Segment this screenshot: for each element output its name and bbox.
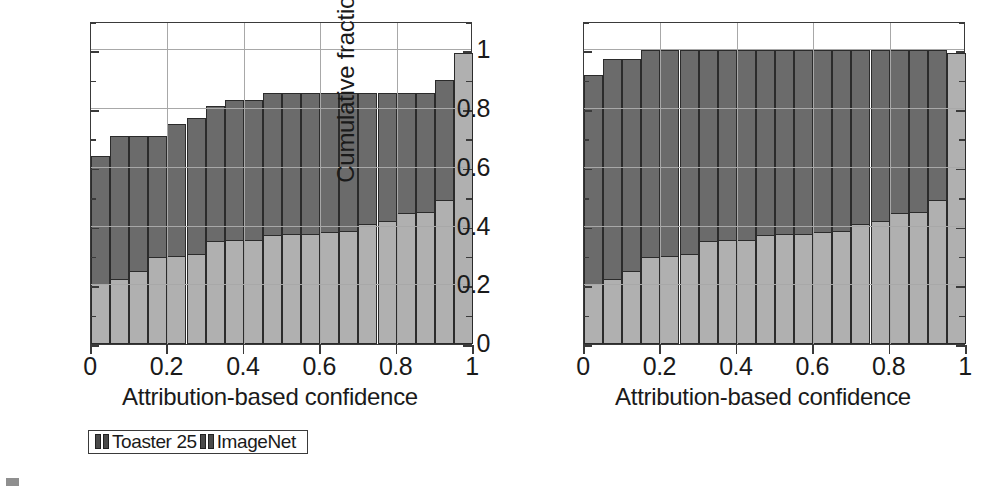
x-tick-mark <box>965 345 967 354</box>
gridline <box>584 108 964 109</box>
bar-group <box>641 23 660 344</box>
bar-segment-imagenet <box>603 279 622 344</box>
y-tick-label: 0.4 <box>430 214 490 239</box>
bar-segment-imagenet <box>794 234 813 344</box>
bar-group <box>129 23 148 344</box>
x-tick-label: 0.4 <box>701 352 771 380</box>
bar-group <box>148 23 167 344</box>
bar-segment-imagenet <box>813 232 832 344</box>
bar-group <box>832 23 851 344</box>
bar-group <box>851 23 870 344</box>
y-tick-mark-minor-right <box>959 257 965 259</box>
x-tick-label: 1 <box>930 352 986 380</box>
bar-group <box>225 23 244 344</box>
x-tick-mark <box>166 345 168 354</box>
bar-segment-imagenet <box>167 256 186 344</box>
bar-group <box>244 23 263 344</box>
chart-panel-right: Cumulative fraction of data Attribution-… <box>493 0 986 494</box>
bar-group <box>947 23 966 344</box>
y-tick-mark <box>583 110 592 112</box>
y-tick-mark-minor <box>90 198 96 200</box>
y-tick-mark-minor <box>583 257 589 259</box>
bar-segment-imagenet <box>206 241 225 344</box>
gridline <box>91 108 471 109</box>
y-tick-mark <box>90 286 99 288</box>
bar-segment-imagenet <box>263 235 282 344</box>
bar-group <box>890 23 909 344</box>
x-tick-mark <box>319 345 321 354</box>
x-tick-label: 0 <box>55 352 125 380</box>
bar-segment-imagenet <box>909 212 928 344</box>
x-tick-label: 0.2 <box>131 352 201 380</box>
gridline <box>91 226 471 227</box>
y-axis-label: Cumulative fraction of data <box>329 0 363 214</box>
bar-segment-imagenet <box>225 240 244 344</box>
page-scan-artifact <box>6 478 19 486</box>
y-tick-mark-minor-right <box>466 22 472 24</box>
bar-segment-imagenet <box>660 256 679 344</box>
bar-group <box>680 23 699 344</box>
bar-segment-imagenet <box>244 240 263 344</box>
bar-segment-imagenet <box>378 221 397 344</box>
y-tick-mark-right <box>956 345 965 347</box>
bar-group <box>603 23 622 344</box>
y-tick-mark <box>583 169 592 171</box>
x-tick-label: 0.6 <box>777 352 847 380</box>
bar-segment-imagenet <box>129 271 148 344</box>
bar-group <box>871 23 890 344</box>
y-tick-mark <box>583 228 592 230</box>
bar-segment-imagenet <box>339 231 358 344</box>
y-tick-mark-right <box>956 169 965 171</box>
bar-segment-imagenet <box>320 232 339 344</box>
bar-group <box>187 23 206 344</box>
y-tick-mark-minor-right <box>959 139 965 141</box>
y-tick-mark-minor <box>90 81 96 83</box>
bar-segment-imagenet <box>641 257 660 344</box>
y-tick-mark-minor-right <box>959 316 965 318</box>
y-tick-mark-minor-right <box>466 198 472 200</box>
y-tick-label: 0.8 <box>430 96 490 121</box>
x-axis-label: Attribution-based confidence <box>553 383 973 411</box>
bar-group <box>263 23 282 344</box>
gridline-vertical <box>660 23 661 344</box>
gridline-vertical <box>167 23 168 344</box>
x-tick-mark <box>659 345 661 354</box>
y-tick-mark <box>583 286 592 288</box>
x-tick-mark <box>889 345 891 354</box>
gridline-vertical <box>890 23 891 344</box>
bar-group <box>167 23 186 344</box>
x-tick-mark <box>812 345 814 354</box>
bar-group <box>794 23 813 344</box>
y-tick-mark-minor <box>90 22 96 24</box>
legend-label-2: ImageNet <box>217 432 296 451</box>
gridline-vertical <box>737 23 738 344</box>
bar-segment-imagenet <box>301 234 320 344</box>
x-tick-mark <box>583 345 585 354</box>
bar-segment-imagenet <box>584 284 603 344</box>
bar-group <box>660 23 679 344</box>
legend-label-1: Toaster 25 <box>112 432 197 451</box>
gridline <box>584 49 964 50</box>
bar-segment-imagenet <box>756 235 775 344</box>
x-tick-mark <box>736 345 738 354</box>
x-tick-mark <box>90 345 92 354</box>
legend-left: Toaster 25 ImageNet <box>88 430 308 454</box>
bars-left <box>91 23 471 344</box>
bar-segment-imagenet <box>890 213 909 344</box>
y-tick-mark-minor <box>90 257 96 259</box>
bar-group <box>699 23 718 344</box>
bar-segment-imagenet <box>622 271 641 344</box>
x-tick-label: 0.8 <box>854 352 924 380</box>
bar-group <box>622 23 641 344</box>
y-tick-mark-minor <box>583 198 589 200</box>
y-tick-label: 0.2 <box>430 272 490 297</box>
y-tick-mark-minor <box>90 316 96 318</box>
y-tick-mark <box>583 51 592 53</box>
gridline <box>91 284 471 285</box>
y-tick-mark-minor <box>583 316 589 318</box>
x-tick-mark <box>243 345 245 354</box>
x-tick-label: 0.8 <box>361 352 431 380</box>
chart-panel-left: Cumulative fraction of data Attribution-… <box>0 0 493 494</box>
gridline <box>584 226 964 227</box>
legend-swatch-icon-1 <box>95 434 111 449</box>
